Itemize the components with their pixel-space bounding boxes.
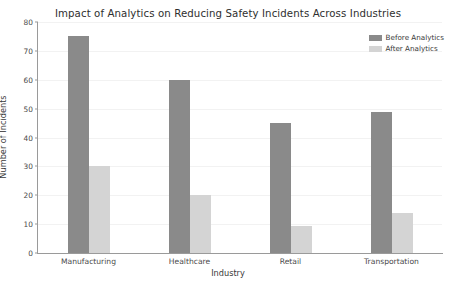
legend-item: Before Analytics [369,33,444,42]
x-tick-label: Manufacturing [61,257,116,266]
gridline [38,22,442,23]
x-axis-spine [37,253,443,254]
bar [371,112,392,253]
bar [270,123,291,253]
y-axis-title: Number of Incidents [0,95,8,178]
plot-area: 01020304050607080ManufacturingHealthcare… [38,22,442,253]
legend-swatch [369,46,382,52]
y-tick-label: 10 [24,220,38,229]
gridline [38,80,442,81]
y-tick-label: 20 [24,191,38,200]
chart-legend: Before AnalyticsAfter Analytics [366,31,447,55]
y-tick-label: 70 [24,46,38,55]
x-tick-label: Retail [280,257,301,266]
y-tick-label: 0 [28,249,38,258]
bar [392,213,413,253]
bar [68,36,89,253]
y-tick-label: 30 [24,162,38,171]
y-tick-label: 50 [24,104,38,113]
y-tick-label: 40 [24,133,38,142]
chart-title: Impact of Analytics on Reducing Safety I… [0,8,456,19]
bar [291,226,312,253]
gridline [38,109,442,110]
bar [169,80,190,253]
chart-figure: Impact of Analytics on Reducing Safety I… [0,0,456,288]
legend-label: Before Analytics [386,33,444,42]
legend-item: After Analytics [369,44,444,53]
x-tick-label: Transportation [364,257,419,266]
y-tick-label: 80 [24,18,38,27]
y-tick-label: 60 [24,75,38,84]
x-axis-title: Industry [0,268,456,278]
bar [190,195,211,253]
legend-swatch [369,35,382,41]
bar [89,166,110,253]
x-tick-label: Healthcare [169,257,210,266]
legend-label: After Analytics [386,44,438,53]
